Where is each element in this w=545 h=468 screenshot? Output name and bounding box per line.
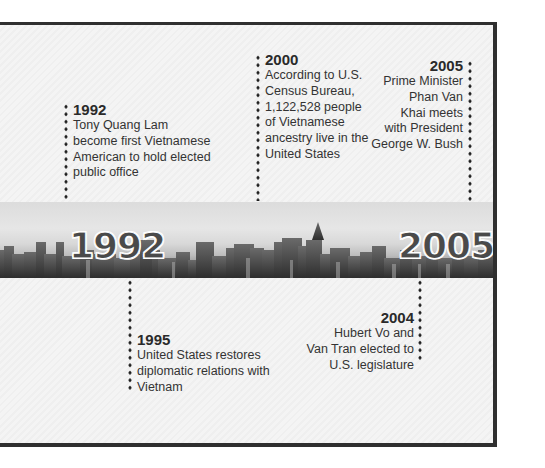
event-year: 1995	[137, 331, 270, 348]
band-end-year: 2005	[398, 228, 493, 264]
event-line: diplomatic relations with	[137, 364, 270, 380]
event-line: ancestry live in the	[265, 131, 369, 147]
skyline-band: 1992 2005	[0, 202, 493, 278]
event-line: with President	[371, 121, 463, 137]
event-line: Phan Van	[371, 90, 463, 106]
event-year: 2004	[307, 309, 414, 326]
event-2004: 2004 Hubert Vo and Van Tran elected to U…	[307, 309, 414, 373]
event-line: public office	[73, 165, 211, 181]
connector-dots-2005	[468, 60, 472, 201]
connector-dots-2000	[256, 54, 260, 201]
event-2005: 2005 Prime Minister Phan Van Khai meets …	[371, 57, 463, 153]
event-line: Vietnam	[137, 380, 270, 396]
event-line: United States restores	[137, 348, 270, 364]
event-line: 1,122,528 people	[265, 100, 369, 116]
event-year: 2000	[265, 51, 369, 68]
band-start-year: 1992	[69, 228, 165, 264]
event-line: Van Tran elected to	[307, 342, 414, 358]
event-line: Census Bureau,	[265, 84, 369, 100]
connector-dots-1995	[128, 279, 132, 391]
event-line: Tony Quang Lam	[73, 118, 211, 134]
event-year: 2005	[371, 57, 463, 74]
event-line: of Vietnamese	[265, 115, 369, 131]
event-line: Khai meets	[371, 106, 463, 122]
event-line: Prime Minister	[371, 74, 463, 90]
event-line: According to U.S.	[265, 68, 369, 84]
event-line: United States	[265, 147, 369, 163]
event-2000: 2000 According to U.S. Census Bureau, 1,…	[265, 51, 369, 163]
event-line: George W. Bush	[371, 137, 463, 153]
event-line: American to hold elected	[73, 150, 211, 166]
connector-dots-1992	[64, 103, 68, 201]
event-line: become first Vietnamese	[73, 134, 211, 150]
event-1995: 1995 United States restores diplomatic r…	[137, 331, 270, 395]
event-year: 1992	[73, 101, 211, 118]
event-1992: 1992 Tony Quang Lam become first Vietnam…	[73, 101, 211, 181]
connector-dots-2004	[418, 279, 422, 363]
event-line: U.S. legislature	[307, 358, 414, 374]
event-line: Hubert Vo and	[307, 326, 414, 342]
